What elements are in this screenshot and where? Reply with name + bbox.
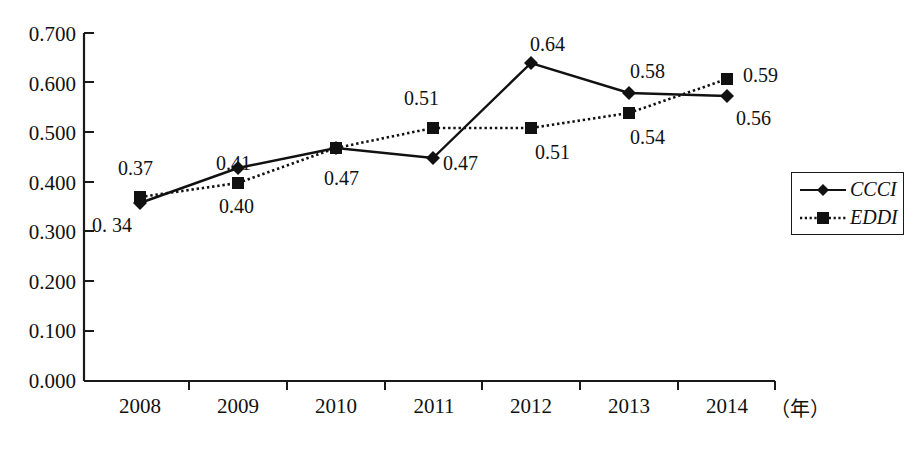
marker-eddi-2014: [721, 73, 733, 85]
marker-eddi-2011: [427, 122, 439, 134]
line-chart: 0.700 0.600 0.500 0.400 0.300 0.200 0.10…: [0, 0, 920, 449]
marker-ccci-2013: [622, 86, 636, 100]
marker-ccci-2009: [231, 161, 245, 175]
marker-eddi-2012: [525, 122, 537, 134]
marker-eddi-2013: [623, 107, 635, 119]
chart-plot-area: [0, 0, 920, 449]
x-axis: [84, 381, 775, 390]
y-axis: [84, 33, 94, 381]
marker-eddi-2009: [232, 177, 244, 189]
marker-ccci-2014: [720, 89, 734, 103]
